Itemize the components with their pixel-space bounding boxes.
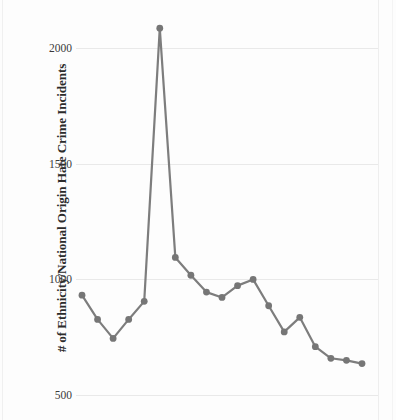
data-point-7[interactable] xyxy=(187,272,194,279)
data-point-11[interactable] xyxy=(250,276,257,283)
chart-page: # of Ethnicity/National Origin Hate Crim… xyxy=(0,0,396,420)
data-point-18[interactable] xyxy=(359,360,366,367)
series-line xyxy=(82,28,362,363)
data-point-5[interactable] xyxy=(156,25,163,32)
data-point-9[interactable] xyxy=(219,294,226,301)
data-point-1[interactable] xyxy=(94,316,101,323)
page-edge-right xyxy=(378,0,379,420)
data-point-15[interactable] xyxy=(312,343,319,350)
data-point-13[interactable] xyxy=(281,329,288,336)
data-point-14[interactable] xyxy=(296,314,303,321)
line-chart-svg xyxy=(76,18,378,402)
data-point-4[interactable] xyxy=(141,298,148,305)
data-point-10[interactable] xyxy=(234,282,241,289)
data-point-2[interactable] xyxy=(110,335,117,342)
y-axis-title: # of Ethnicity/National Origin Hate Crim… xyxy=(54,53,70,363)
data-point-0[interactable] xyxy=(79,292,86,299)
plot-area: 500100015002000 xyxy=(76,18,378,402)
y-tick-label-500: 500 xyxy=(12,389,72,401)
page-edge-right-outer xyxy=(392,0,393,420)
data-point-6[interactable] xyxy=(172,254,179,261)
data-point-16[interactable] xyxy=(327,355,334,362)
data-point-12[interactable] xyxy=(265,302,272,309)
y-tick-label-1500: 1500 xyxy=(12,158,72,170)
y-tick-label-2000: 2000 xyxy=(12,42,72,54)
data-point-8[interactable] xyxy=(203,289,210,296)
y-tick-label-1000: 1000 xyxy=(12,273,72,285)
page-edge-left xyxy=(2,0,3,420)
data-point-17[interactable] xyxy=(343,357,350,364)
data-point-3[interactable] xyxy=(125,316,132,323)
